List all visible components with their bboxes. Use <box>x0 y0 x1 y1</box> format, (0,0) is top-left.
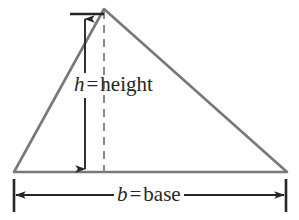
height-word: height <box>100 72 153 96</box>
base-word: base <box>143 182 180 206</box>
height-label: h=height <box>74 74 153 95</box>
base-variable: b <box>117 182 128 206</box>
base-label: b=base <box>114 184 184 205</box>
base-equals-sign: = <box>128 182 144 206</box>
height-variable: h <box>74 72 85 96</box>
height-equals-sign: = <box>85 72 101 96</box>
figure-canvas: h=height b=base <box>0 0 299 220</box>
